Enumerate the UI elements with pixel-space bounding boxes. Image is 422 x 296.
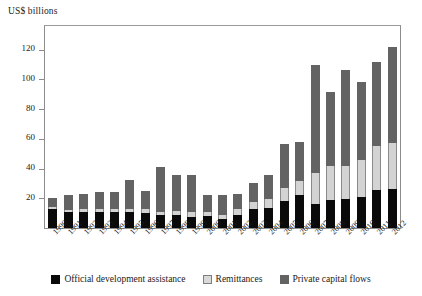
bar-segment-pcf xyxy=(357,82,366,160)
bar-segment-pcf xyxy=(341,70,350,166)
y-axis: 20406080100120 xyxy=(0,25,44,230)
y-axis-tick-label: 80 xyxy=(26,103,35,113)
bar-1999 xyxy=(187,175,196,228)
bar-2007 xyxy=(311,65,320,228)
bar-segment-rem xyxy=(311,173,320,204)
bar-segment-rem xyxy=(295,181,304,195)
bar-segment-pcf xyxy=(218,195,227,214)
bar-segment-pcf xyxy=(372,62,381,146)
y-axis-tick-label: 40 xyxy=(26,162,35,172)
bar-segment-pcf xyxy=(203,195,212,211)
y-axis-title: US$ billions xyxy=(8,6,58,16)
y-axis-tick-label: 100 xyxy=(22,73,36,83)
bar-segment-rem xyxy=(388,143,397,188)
bar-segment-pcf xyxy=(233,194,242,210)
bar-segment-pcf xyxy=(295,142,304,181)
legend-label: Private capital flows xyxy=(293,274,371,284)
legend-item: Private capital flows xyxy=(280,274,371,284)
y-axis-tick-label: 120 xyxy=(22,43,36,53)
chart-figure: US$ billions 20406080100120 199019911992… xyxy=(0,0,422,296)
bar-segment-rem xyxy=(357,160,366,197)
bar-segment-pcf xyxy=(388,47,397,144)
bar-segment-rem xyxy=(264,199,273,208)
bar-segment-rem xyxy=(326,166,335,200)
bar-segment-rem xyxy=(249,202,258,209)
bar-segment-pcf xyxy=(156,167,165,212)
chart-legend: Official development assistanceRemittanc… xyxy=(0,274,422,284)
bar-segment-pcf xyxy=(249,183,258,202)
legend-item: Remittances xyxy=(203,274,263,284)
bar-segment-pcf xyxy=(110,192,119,209)
bar-segment-pcf xyxy=(95,192,104,209)
bar-segment-rem xyxy=(372,146,381,191)
bar-2004 xyxy=(264,175,273,228)
x-axis: 1990199119921993199419951996199719981999… xyxy=(45,230,400,266)
bar-2012 xyxy=(388,47,397,228)
bar-segment-pcf xyxy=(280,144,289,188)
legend-swatch-rem xyxy=(203,275,212,284)
bar-2009 xyxy=(341,70,350,228)
bar-segment-pcf xyxy=(64,195,73,210)
bar-2005 xyxy=(280,144,289,228)
y-axis-tick-label: 20 xyxy=(26,192,35,202)
bar-series-group xyxy=(45,26,400,228)
bar-2010 xyxy=(357,82,366,228)
legend-item: Official development assistance xyxy=(51,274,185,284)
bar-segment-pcf xyxy=(125,180,134,209)
legend-label: Remittances xyxy=(216,274,263,284)
bar-2011 xyxy=(372,62,381,228)
legend-label: Official development assistance xyxy=(64,274,185,284)
legend-swatch-oda xyxy=(51,275,60,284)
bar-segment-pcf xyxy=(264,175,273,200)
bar-2008 xyxy=(326,92,335,228)
bar-segment-pcf xyxy=(79,194,88,210)
bar-segment-rem xyxy=(341,166,350,199)
bar-1997 xyxy=(156,167,165,228)
bar-segment-pcf xyxy=(311,65,320,173)
bar-segment-rem xyxy=(280,188,289,201)
bar-segment-pcf xyxy=(172,175,181,211)
bar-segment-pcf xyxy=(326,92,335,166)
bar-segment-pcf xyxy=(187,175,196,213)
legend-swatch-pcf xyxy=(280,275,289,284)
bar-segment-pcf xyxy=(141,191,150,210)
bar-segment-pcf xyxy=(48,198,57,207)
bar-2006 xyxy=(295,142,304,228)
y-axis-tick-label: 60 xyxy=(26,132,35,142)
